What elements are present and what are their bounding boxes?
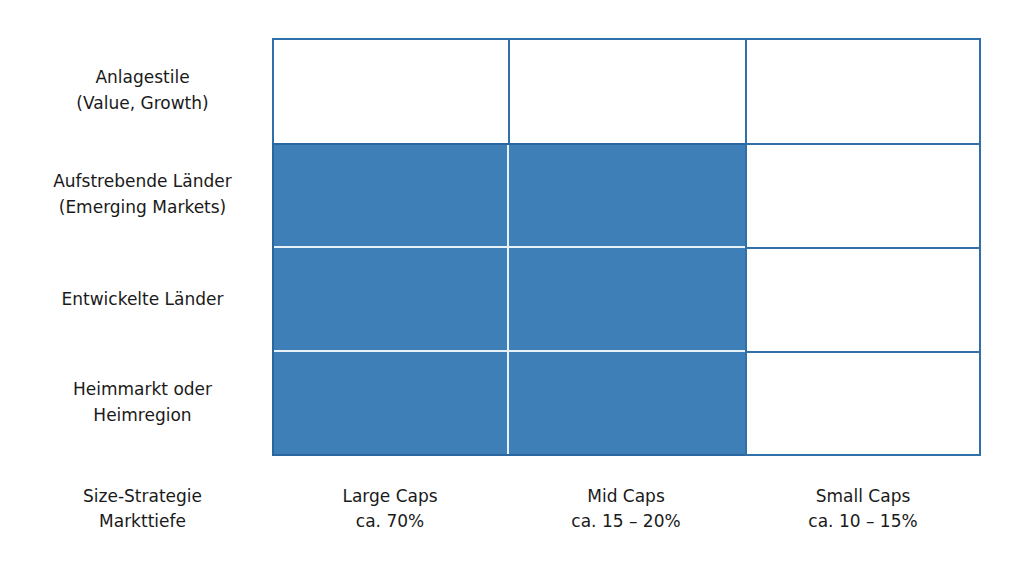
row-label-line: Heimregion bbox=[20, 402, 265, 428]
row-label-line: Heimmarkt oder bbox=[20, 376, 265, 402]
row-label-line: (Emerging Markets) bbox=[20, 194, 265, 220]
cell-home-small bbox=[745, 351, 981, 456]
divider-vertical bbox=[507, 145, 509, 454]
row-label-developed-countries: Entwickelte Länder bbox=[20, 286, 265, 312]
column-label-line: ca. 10 – 15% bbox=[745, 509, 981, 534]
axis-label-line: Size-Strategie bbox=[20, 484, 265, 509]
cell-styles-small bbox=[745, 38, 981, 145]
axis-label-size-strategy: Size-Strategie Markttiefe bbox=[20, 484, 265, 534]
row-label-line: Entwickelte Länder bbox=[20, 286, 265, 312]
column-label-small-caps: Small Caps ca. 10 – 15% bbox=[745, 484, 981, 534]
column-label-line: ca. 15 – 20% bbox=[508, 509, 744, 534]
row-label-line: (Value, Growth) bbox=[20, 90, 265, 116]
column-label-line: ca. 70% bbox=[272, 509, 508, 534]
column-label-mid-caps: Mid Caps ca. 15 – 20% bbox=[508, 484, 744, 534]
row-label-home-market: Heimmarkt oder Heimregion bbox=[20, 376, 265, 428]
cell-styles-mid bbox=[508, 38, 747, 145]
row-label-line: Anlagestile bbox=[20, 64, 265, 90]
column-label-line: Large Caps bbox=[272, 484, 508, 509]
row-label-emerging-markets: Aufstrebende Länder (Emerging Markets) bbox=[20, 168, 265, 220]
divider-horizontal bbox=[274, 246, 745, 248]
cell-developed-small bbox=[745, 247, 981, 353]
strategy-matrix bbox=[272, 38, 981, 456]
divider-horizontal bbox=[274, 350, 745, 352]
row-label-investment-styles: Anlagestile (Value, Growth) bbox=[20, 64, 265, 116]
column-label-line: Small Caps bbox=[745, 484, 981, 509]
filled-region-large-mid bbox=[272, 143, 747, 456]
cell-styles-large bbox=[272, 38, 510, 145]
cell-emerging-small bbox=[745, 143, 981, 249]
column-label-large-caps: Large Caps ca. 70% bbox=[272, 484, 508, 534]
row-label-line: Aufstrebende Länder bbox=[20, 168, 265, 194]
axis-label-line: Markttiefe bbox=[20, 509, 265, 534]
column-label-line: Mid Caps bbox=[508, 484, 744, 509]
